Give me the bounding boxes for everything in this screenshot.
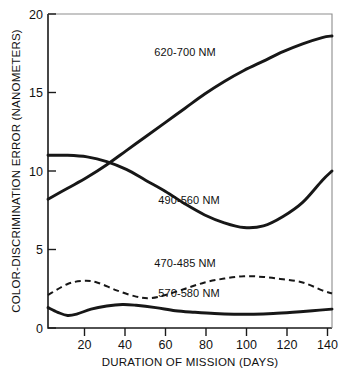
x-tick-label-40: 40	[118, 338, 132, 352]
series-label-570-580: 570-580 NM	[158, 287, 220, 299]
y-axis-title: COLOR-DISCRIMINATION ERROR (NANOMETERS)	[10, 29, 22, 313]
y-tick-label-0: 0	[36, 322, 43, 336]
y-tick-labels: 0 5 10 15 20	[29, 8, 43, 336]
series-line-620-700	[48, 36, 332, 199]
series-label-490-560: 490-560 NM	[158, 194, 220, 206]
data-curves	[48, 36, 332, 316]
y-tick-marks	[48, 14, 56, 328]
x-tick-labels: 20 40 60 80 100 120 140	[78, 338, 338, 352]
y-tick-label-20: 20	[29, 8, 43, 22]
y-tick-label-5: 5	[36, 243, 43, 257]
y-tick-label-10: 10	[29, 165, 43, 179]
series-label-470-485: 470-485 NM	[154, 257, 216, 269]
series-annotations: 620-700 NM 490-560 NM 470-485 NM 570-580…	[154, 46, 219, 298]
chart-figure: 0 5 10 15 20 20 40 60 80 100 120 140 D	[0, 0, 343, 378]
x-tick-label-80: 80	[199, 338, 213, 352]
series-line-490-560	[48, 155, 332, 228]
series-line-570-580	[48, 304, 332, 315]
x-tick-label-60: 60	[159, 338, 173, 352]
x-tick-label-100: 100	[236, 338, 257, 352]
x-axis-title: DURATION OF MISSION (DAYS)	[102, 356, 279, 368]
chart-canvas: 0 5 10 15 20 20 40 60 80 100 120 140 D	[0, 0, 343, 378]
y-tick-label-15: 15	[29, 86, 43, 100]
series-label-620-700: 620-700 NM	[154, 46, 216, 58]
x-tick-label-20: 20	[78, 338, 92, 352]
x-tick-label-140: 140	[317, 338, 338, 352]
x-tick-marks	[85, 328, 328, 336]
x-tick-label-120: 120	[277, 338, 298, 352]
